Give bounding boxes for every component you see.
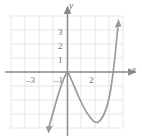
y-axis bbox=[64, 6, 72, 137]
y-axis-label: y bbox=[69, 2, 73, 12]
x-tick-label-neg3: –3 bbox=[26, 76, 35, 85]
cubic-function-graph: –3 –1 2 1 2 3 y x bbox=[0, 0, 142, 139]
graph-canvas bbox=[0, 0, 142, 139]
y-tick-label-2: 2 bbox=[58, 42, 63, 51]
y-tick-label-1: 1 bbox=[58, 56, 63, 65]
curve-arrow-up-right-icon bbox=[115, 19, 122, 27]
x-tick-label-neg1: –1 bbox=[54, 76, 63, 85]
curve-arrow-down-left-icon bbox=[46, 126, 53, 134]
x-tick-label-2: 2 bbox=[89, 76, 94, 85]
y-tick-label-3: 3 bbox=[58, 28, 63, 37]
x-axis-label: x bbox=[132, 66, 136, 76]
